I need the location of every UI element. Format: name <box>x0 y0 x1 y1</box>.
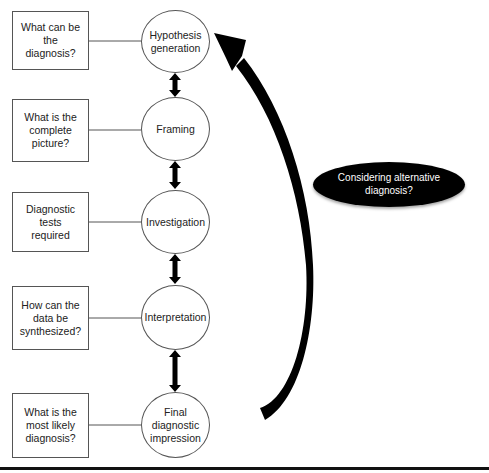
question-box-hypothesis: What can be the diagnosis? <box>12 11 89 70</box>
double-arrow-icon <box>169 161 181 189</box>
question-box-framing: What is the complete picture? <box>12 99 89 162</box>
callout-text: Considering alternative diagnosis? <box>329 172 449 197</box>
alternative-diagnosis-callout: Considering alternative diagnosis? <box>313 162 465 207</box>
question-box-interpretation: How can the data be synthesized? <box>12 286 89 350</box>
bottom-divider <box>0 467 489 470</box>
node-label: Hypothesis generation <box>145 29 206 55</box>
double-arrow-icon <box>169 254 181 284</box>
question-text: Diagnostic tests required <box>19 203 82 242</box>
question-text: What is the most likely diagnosis? <box>19 406 82 445</box>
question-box-final: What is the most likely diagnosis? <box>12 393 89 458</box>
box-node-connectors <box>89 41 141 425</box>
node-interpretation: Interpretation <box>141 285 210 350</box>
node-label: Final diagnostic impression <box>145 406 206 445</box>
double-arrow-icon <box>169 73 181 97</box>
double-arrow-icon <box>169 350 181 392</box>
question-text: What can be the diagnosis? <box>19 21 82 60</box>
node-final-diagnostic-impression: Final diagnostic impression <box>141 392 210 458</box>
question-box-investigation: Diagnostic tests required <box>12 192 89 252</box>
node-framing: Framing <box>141 97 210 161</box>
question-text: How can the data be synthesized? <box>19 299 82 338</box>
diagnostic-process-diagram: What can be the diagnosis? What is the c… <box>0 0 489 473</box>
curved-feedback-arrow-icon <box>214 33 313 420</box>
node-investigation: Investigation <box>141 190 210 254</box>
question-text: What is the complete picture? <box>19 111 82 150</box>
node-label: Framing <box>156 123 195 136</box>
node-label: Interpretation <box>145 311 207 324</box>
node-label: Investigation <box>146 216 205 229</box>
node-hypothesis-generation: Hypothesis generation <box>141 10 210 73</box>
